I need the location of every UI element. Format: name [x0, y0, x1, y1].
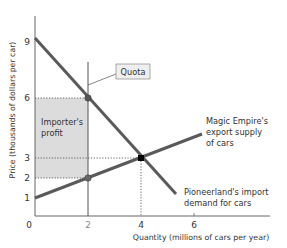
demand-label-2: demand for cars — [184, 198, 251, 208]
quota-leader — [88, 74, 116, 85]
supply-label-1: Magic Empire's — [206, 116, 268, 126]
x-tick-4: 4 — [138, 220, 144, 230]
y-tick-6: 6 — [24, 93, 30, 103]
y-tick-3: 3 — [24, 153, 30, 163]
y-tick-2: 2 — [24, 173, 30, 183]
importer-profit-region — [35, 98, 88, 178]
quota-label: Quota — [121, 67, 146, 77]
x-axis-label: Quantity (millions of cars per year) — [133, 233, 269, 242]
demand-label-1: Pioneerland's import — [184, 187, 269, 197]
quota-supply-point — [85, 175, 91, 181]
x-tick-2: 2 — [85, 220, 91, 230]
y-axis-label: Price (thousands of dollars per car) — [8, 42, 17, 179]
supply-label-2: export supply — [206, 127, 262, 137]
x-tick-0: 0 — [26, 220, 32, 230]
importer-profit-label-1: Importer's — [41, 117, 83, 127]
supply-label-3: of cars — [206, 138, 234, 148]
y-tick-1: 1 — [24, 193, 30, 203]
importer-profit-label-2: profit — [41, 128, 64, 138]
equilibrium-point — [138, 155, 144, 161]
x-tick-6: 6 — [191, 220, 197, 230]
quota-demand-point — [85, 95, 91, 101]
y-tick-9: 9 — [24, 37, 30, 47]
chart-canvas: 9 6 3 2 1 0 2 4 6 Quantity (millions of … — [0, 0, 287, 248]
